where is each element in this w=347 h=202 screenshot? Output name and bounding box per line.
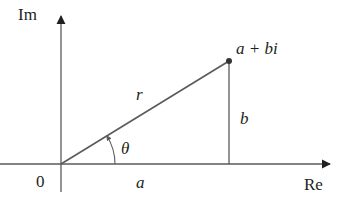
real-axis-label: Re — [304, 176, 323, 193]
imaginary-part-label: b — [240, 110, 249, 127]
modulus-line — [61, 61, 229, 164]
origin-label: 0 — [36, 173, 45, 190]
angle-label: θ — [121, 140, 129, 157]
diagram-graphics — [0, 0, 347, 202]
angle-arc — [107, 136, 115, 164]
complex-plane-diagram: Im Re 0 a + bi r b a θ — [0, 0, 347, 202]
real-part-label: a — [136, 174, 145, 191]
imaginary-axis-label: Im — [18, 6, 37, 23]
point-label: a + bi — [236, 40, 278, 57]
modulus-label: r — [136, 86, 143, 103]
complex-point — [226, 58, 232, 64]
